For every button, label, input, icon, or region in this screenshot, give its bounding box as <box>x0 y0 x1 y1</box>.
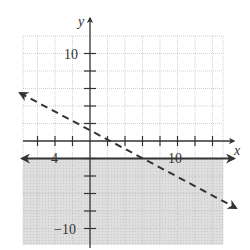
y-tick-label-neg10: −10 <box>54 222 76 237</box>
y-axis-label: y <box>76 14 85 29</box>
x-axis-label: x <box>233 143 241 158</box>
inequality-graph: y x 10 −10 −4 10 <box>0 0 250 250</box>
y-tick-label-10: 10 <box>64 47 78 62</box>
shaded-region <box>23 159 223 245</box>
